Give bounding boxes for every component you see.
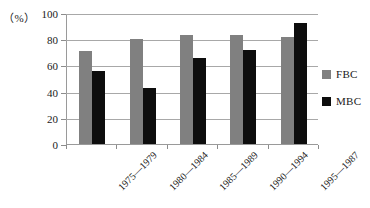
bar-fbc-2: [180, 35, 193, 144]
legend-swatch-mbc-icon: [322, 97, 331, 106]
y-tick-label: 80: [47, 35, 58, 46]
y-tick-label: 0: [53, 140, 59, 151]
y-tick-mark: [61, 40, 66, 41]
y-tick-mark: [61, 14, 66, 15]
y-axis-line: [66, 14, 67, 145]
x-label-3: 1990—1994: [268, 150, 310, 192]
bar-chart: （%） 020406080100 1975—19791980—19841985—…: [0, 0, 370, 208]
gridline: [66, 14, 318, 15]
y-tick-mark: [61, 93, 66, 94]
y-tick-mark: [61, 119, 66, 120]
x-tick-mark: [318, 145, 319, 149]
legend-label-mbc: MBC: [336, 95, 361, 107]
bar-fbc-4: [281, 37, 294, 144]
y-tick-label: 20: [47, 113, 58, 124]
x-tick-mark: [268, 145, 269, 149]
legend-swatch-fbc-icon: [322, 70, 331, 79]
bar-fbc-0: [79, 51, 92, 144]
bar-mbc-1: [143, 88, 156, 144]
x-label-1: 1980—1984: [167, 150, 209, 192]
y-tick-mark: [61, 66, 66, 67]
bar-fbc-3: [230, 35, 243, 144]
bar-mbc-2: [193, 58, 206, 144]
legend-item-fbc: FBC: [322, 68, 370, 80]
x-label-0: 1975—1979: [117, 150, 159, 192]
x-tick-mark: [66, 145, 67, 149]
bar-mbc-0: [92, 71, 105, 144]
legend-label-fbc: FBC: [336, 68, 358, 80]
x-label-2: 1985—1989: [218, 150, 260, 192]
bar-fbc-1: [130, 39, 143, 144]
x-label-4: 1995—1987: [318, 150, 360, 192]
x-tick-mark: [217, 145, 218, 149]
bar-mbc-3: [243, 50, 256, 144]
y-tick-label: 100: [42, 9, 59, 20]
x-tick-mark: [116, 145, 117, 149]
y-tick-label: 40: [47, 87, 58, 98]
bar-mbc-4: [294, 23, 307, 144]
y-axis-unit-label: （%）: [3, 9, 36, 25]
y-tick-label: 60: [47, 61, 58, 72]
plot-area: 020406080100: [66, 14, 318, 145]
x-axis-line: [66, 144, 318, 145]
legend-item-mbc: MBC: [322, 95, 370, 107]
x-tick-mark: [167, 145, 168, 149]
legend: FBC MBC: [322, 68, 370, 122]
